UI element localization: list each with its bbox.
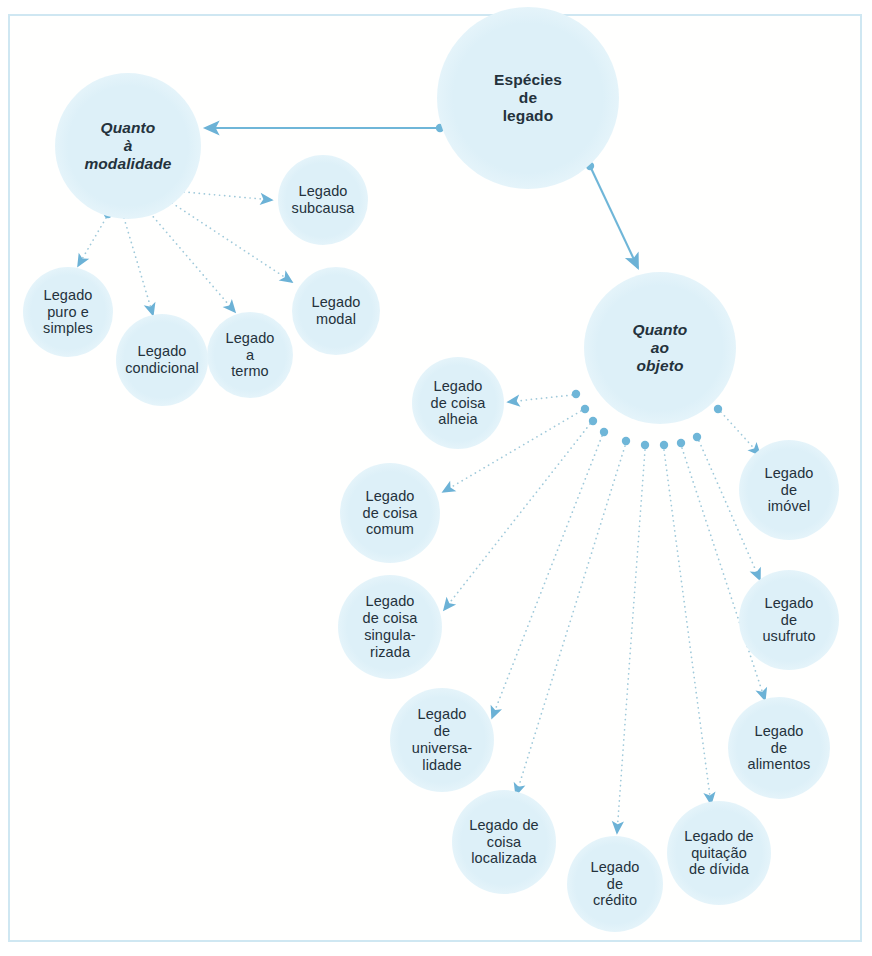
diagram-canvas: Espécies de legadoQuanto à modalidadeQua… xyxy=(0,0,872,956)
node-label-modal: Legado modal xyxy=(310,294,363,328)
node-label-localizada: Legado de coisa localizada xyxy=(467,817,540,867)
node-termo[interactable]: Legado a termo xyxy=(207,312,293,398)
node-imovel[interactable]: Legado de imóvel xyxy=(739,440,839,540)
node-label-alimentos: Legado de alimentos xyxy=(746,723,813,773)
node-singular[interactable]: Legado de coisa singula- rizada xyxy=(338,575,442,679)
node-label-universal: Legado de universa- lidade xyxy=(410,706,475,773)
node-root[interactable]: Espécies de legado xyxy=(437,7,619,189)
node-objeto[interactable]: Quanto ao objeto xyxy=(584,272,736,424)
node-label-quitacao: Legado de quitação de dívida xyxy=(682,828,755,878)
node-alimentos[interactable]: Legado de alimentos xyxy=(728,697,830,799)
node-label-objeto: Quanto ao objeto xyxy=(631,321,690,375)
node-label-subcausa: Legado subcausa xyxy=(290,183,357,217)
node-usufruto[interactable]: Legado de usufruto xyxy=(739,570,839,670)
node-universal[interactable]: Legado de universa- lidade xyxy=(390,688,494,792)
node-label-modalidade: Quanto à modalidade xyxy=(82,119,173,173)
node-label-singular: Legado de coisa singula- rizada xyxy=(361,593,420,660)
node-alheia[interactable]: Legado de coisa alheia xyxy=(412,357,504,449)
node-quitacao[interactable]: Legado de quitação de dívida xyxy=(667,801,771,905)
node-modalidade[interactable]: Quanto à modalidade xyxy=(55,73,201,219)
node-label-puro: Legado puro e simples xyxy=(41,287,95,337)
node-label-credito: Legado de crédito xyxy=(589,859,642,909)
node-label-condicional: Legado condicional xyxy=(123,343,201,377)
node-label-alheia: Legado de coisa alheia xyxy=(429,378,488,428)
node-label-termo: Legado a termo xyxy=(224,330,277,380)
node-condicional[interactable]: Legado condicional xyxy=(116,314,208,406)
node-comum[interactable]: Legado de coisa comum xyxy=(340,463,440,563)
node-label-usufruto: Legado de usufruto xyxy=(760,595,817,645)
node-credito[interactable]: Legado de crédito xyxy=(567,836,663,932)
node-localizada[interactable]: Legado de coisa localizada xyxy=(452,790,556,894)
node-subcausa[interactable]: Legado subcausa xyxy=(278,155,368,245)
node-modal[interactable]: Legado modal xyxy=(292,267,380,355)
node-puro[interactable]: Legado puro e simples xyxy=(23,267,113,357)
node-label-imovel: Legado de imóvel xyxy=(763,465,816,515)
node-label-root: Espécies de legado xyxy=(492,71,564,125)
node-label-comum: Legado de coisa comum xyxy=(361,488,420,538)
